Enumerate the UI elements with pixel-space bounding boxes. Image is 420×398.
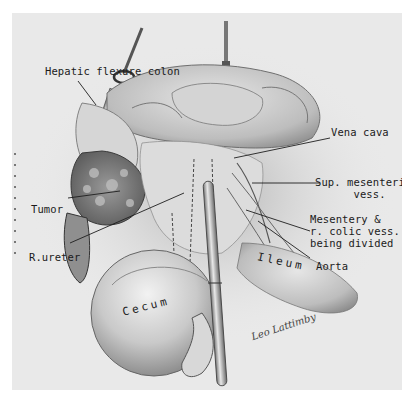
label-sup-mesenteric-vess: Sup. mesenteric vess. [315, 176, 402, 200]
label-tumor: Tumor [31, 203, 63, 215]
label-mesentery-r-colic-vess: Mesentery & r. colic vess. being divided [310, 213, 400, 249]
label-r-ureter: R.ureter [29, 251, 80, 263]
label-hepatic-flexure-colon: Hepatic flexure colon [45, 65, 180, 77]
illustration-panel: Hepatic flexure colon Vena cava Sup. mes… [12, 13, 402, 390]
label-vena-cava: Vena cava [331, 126, 389, 138]
label-aorta: Aorta [316, 260, 348, 272]
